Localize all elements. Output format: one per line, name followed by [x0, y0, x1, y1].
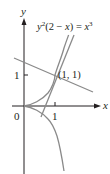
x-axis-label: x	[102, 99, 108, 111]
x-axis: x 1 0	[12, 99, 108, 122]
y-axis-arrow-icon	[22, 18, 27, 25]
cissoid-tangent-diagram: y 1 x 1 0 (1, 1) y2(2 − x) = x3	[0, 0, 110, 174]
origin-label: 0	[14, 110, 20, 122]
y-axis: y 1	[14, 5, 28, 174]
eq-rp: ) =	[70, 21, 85, 33]
y-tick-label-1: 1	[14, 69, 20, 81]
y-axis-label: y	[20, 5, 26, 17]
x-tick-label-1: 1	[52, 110, 58, 122]
eq-mid: (2 −	[45, 21, 65, 33]
equation-label: y2(2 − x) = x3	[36, 20, 93, 33]
eq-sup3: 3	[89, 20, 93, 28]
curve-lower-branch	[24, 106, 64, 171]
x-axis-arrow-icon	[94, 104, 101, 109]
point-label: (1, 1)	[58, 69, 81, 81]
